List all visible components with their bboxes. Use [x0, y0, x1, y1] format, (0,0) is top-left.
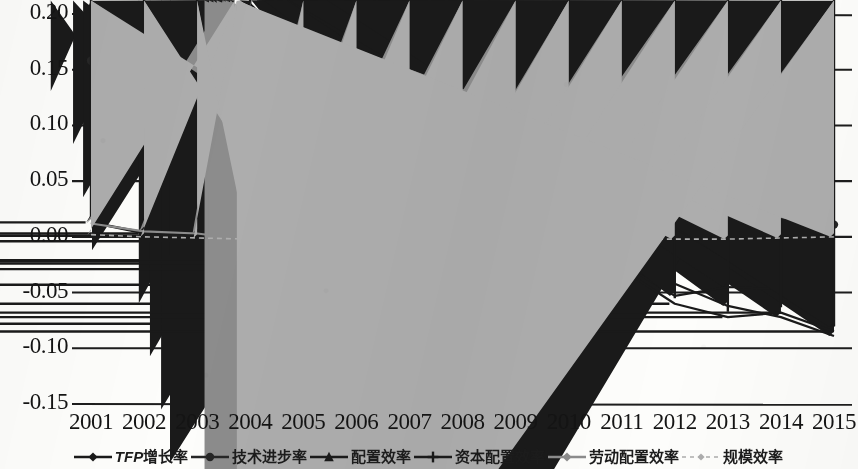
- legend-marker-small-diamond-icon: [681, 450, 721, 464]
- x-tick-label: 2013: [699, 409, 757, 435]
- legend-marker-circle-icon: [190, 450, 230, 464]
- x-tick-label: 2015: [805, 409, 858, 435]
- data-point-marker: [428, 451, 439, 462]
- x-tick-label: 2002: [115, 409, 173, 435]
- y-tick-label: -0.05: [0, 278, 68, 304]
- legend-marker-triangle-icon: [309, 450, 349, 464]
- x-tick-label: 2005: [274, 409, 332, 435]
- y-tick-label: 0.15: [0, 55, 68, 81]
- legend-label-5: 规模效率: [721, 449, 785, 464]
- legend-marker-plus-icon: [413, 450, 453, 464]
- line-chart-plot: [0, 0, 858, 469]
- y-tick-label: 0.10: [0, 110, 68, 136]
- y-tick-label: 0.00: [0, 222, 68, 248]
- x-tick-label: 2006: [327, 409, 385, 435]
- y-tick-label: 0.20: [0, 0, 68, 25]
- x-tick-label: 2010: [540, 409, 598, 435]
- x-tick-label: 2001: [62, 409, 120, 435]
- series-group: [0, 0, 838, 469]
- legend-label-3: 资本配置效率: [453, 449, 547, 464]
- legend-label-2: 配置效率: [349, 449, 413, 464]
- chart-legend: TFP增长率技术进步率配置效率资本配置效率劳动配置效率规模效率: [0, 444, 858, 469]
- legend-item-3[interactable]: 资本配置效率: [413, 449, 547, 464]
- x-tick-label: 2003: [168, 409, 226, 435]
- legend-label-1: 技术进步率: [230, 449, 309, 464]
- data-point-marker: [698, 453, 705, 460]
- legend-item-4[interactable]: 劳动配置效率: [547, 449, 681, 464]
- x-tick-label: 2014: [752, 409, 810, 435]
- x-tick-label: 2008: [434, 409, 492, 435]
- legend-marker-diamond-icon: [73, 450, 113, 464]
- y-tick-label: -0.15: [0, 389, 68, 415]
- data-point-marker: [88, 452, 97, 461]
- y-tick-label: 0.05: [0, 166, 68, 192]
- legend-item-1[interactable]: 技术进步率: [190, 449, 309, 464]
- legend-item-5[interactable]: 规模效率: [681, 449, 785, 464]
- legend-item-2[interactable]: 配置效率: [309, 449, 413, 464]
- chart-figure: 0.200.150.100.050.00-0.05-0.10-0.15 2001…: [0, 0, 858, 469]
- legend-label-cjk: 增长率: [143, 448, 188, 465]
- legend-item-0[interactable]: TFP增长率: [73, 449, 190, 464]
- x-tick-label: 2009: [487, 409, 545, 435]
- x-tick-label: 2011: [593, 409, 651, 435]
- legend-label-0: TFP增长率: [113, 449, 190, 464]
- data-point-marker: [563, 452, 572, 461]
- x-tick-label: 2007: [380, 409, 438, 435]
- legend-label-latin: TFP: [115, 448, 143, 465]
- data-point-marker: [206, 452, 214, 460]
- y-tick-label: -0.10: [0, 333, 68, 359]
- x-tick-label: 2004: [221, 409, 279, 435]
- legend-label-4: 劳动配置效率: [587, 449, 681, 464]
- x-tick-label: 2012: [646, 409, 704, 435]
- legend-marker-diamond-icon: [547, 450, 587, 464]
